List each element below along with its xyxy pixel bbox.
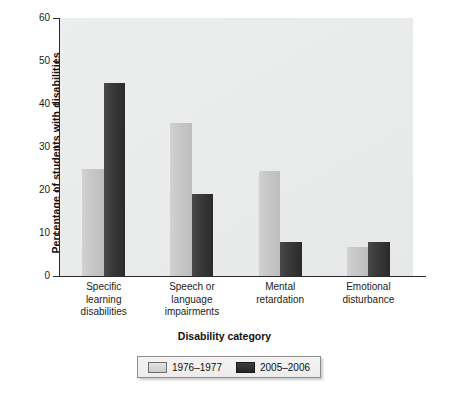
legend-swatch-light (148, 362, 167, 373)
bar (347, 247, 369, 276)
y-axis-tick-label: 0 (24, 270, 50, 281)
legend-label: 1976–1977 (172, 362, 222, 373)
bar (170, 123, 192, 276)
x-axis-category-label: Speech orlanguageimpairments (148, 281, 236, 319)
legend-entry: 1976–1977 (148, 362, 222, 373)
bar (104, 83, 126, 277)
y-axis-tick-label: 10 (24, 227, 50, 238)
y-axis-tick-label: 30 (24, 141, 50, 152)
y-axis-tick-label: 50 (24, 55, 50, 66)
y-axis-tick (53, 147, 59, 148)
x-axis-title: Disability category (0, 330, 449, 342)
bar (259, 171, 281, 276)
y-axis-tick (53, 104, 59, 105)
y-axis-tick (53, 276, 59, 277)
x-axis-category-label-line: Mental (236, 281, 324, 294)
y-axis-tick (53, 61, 59, 62)
x-axis-category-label-line: language (148, 294, 236, 307)
y-axis-tick (53, 18, 59, 19)
y-axis-tick-label: 60 (24, 12, 50, 23)
legend-label: 2005–2006 (260, 362, 310, 373)
x-axis-category-label-line: disabilities (60, 306, 148, 319)
y-axis-tick-label: 20 (24, 184, 50, 195)
x-axis-category-label: Mentalretardation (236, 281, 324, 306)
bar (368, 242, 390, 276)
legend-swatch-dark (236, 362, 255, 373)
bar (280, 242, 302, 276)
x-axis-category-label-line: impairments (148, 306, 236, 319)
x-axis-category-label: Emotionaldisturbance (324, 281, 412, 306)
bar (192, 194, 214, 276)
y-axis-tick-label: 40 (24, 98, 50, 109)
legend: 1976–19772005–2006 (137, 356, 321, 378)
bar (82, 169, 104, 276)
x-axis-category-label-line: learning (60, 294, 148, 307)
x-axis-line (59, 276, 426, 277)
x-axis-category-label-line: disturbance (324, 294, 412, 307)
x-axis-category-label-line: retardation (236, 294, 324, 307)
x-axis-category-label-line: Speech or (148, 281, 236, 294)
x-axis-category-label-line: Emotional (324, 281, 412, 294)
y-axis-tick (53, 233, 59, 234)
x-axis-category-label-line: Specific (60, 281, 148, 294)
x-axis-category-label: Specificlearningdisabilities (60, 281, 148, 319)
bars-layer (60, 18, 413, 276)
y-axis-tick (53, 190, 59, 191)
bar-chart: Percentage of students with disabilities… (0, 0, 449, 401)
legend-entry: 2005–2006 (236, 362, 310, 373)
